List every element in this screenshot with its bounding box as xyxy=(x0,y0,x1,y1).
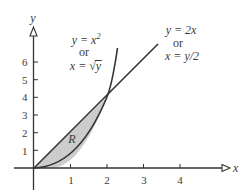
y-tick-label-4: 4 xyxy=(22,91,28,103)
y-axis-label: y xyxy=(30,12,35,24)
x-axis-label: x xyxy=(233,162,238,174)
line-eq: y = 2x xyxy=(166,24,197,36)
region-between-curves-diagram: y x 1 2 3 4 1 2 3 4 5 6 R y = x2 or x = … xyxy=(0,0,245,196)
line-alt-eq: x = y/2 xyxy=(165,50,199,62)
x-tick-label-4: 4 xyxy=(177,174,183,186)
y-tick-label-1: 1 xyxy=(22,145,28,157)
y-tick-label-5: 5 xyxy=(22,74,28,86)
parabola-alt-eq-line: x = √y xyxy=(70,60,102,72)
x-axis-arrow-icon xyxy=(222,165,230,172)
x-tick-label-2: 2 xyxy=(104,174,110,186)
y-tick-label-3: 3 xyxy=(22,109,28,121)
y-ticks xyxy=(34,62,39,150)
parabola-alt-prefix: x = xyxy=(70,59,89,73)
sqrt-radicand: y xyxy=(95,60,102,72)
y-axis-arrow-icon xyxy=(30,27,37,36)
diagram-canvas xyxy=(0,0,245,196)
parabola-exponent: 2 xyxy=(96,32,100,41)
x-tick-label-1: 1 xyxy=(68,174,74,186)
y-tick-label-2: 2 xyxy=(22,127,28,139)
x-tick-label-3: 3 xyxy=(141,174,147,186)
y-tick-label-6: 6 xyxy=(22,56,28,68)
region-r-label: R xyxy=(68,133,75,145)
line-or: or xyxy=(173,37,183,49)
parabola-or: or xyxy=(79,46,89,58)
